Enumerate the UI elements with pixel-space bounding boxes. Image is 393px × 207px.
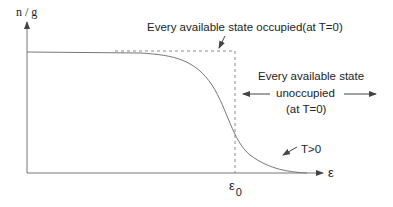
unoccupied-line2: unoccupied <box>276 87 335 99</box>
curve-pointer-arrow <box>283 147 297 155</box>
y-axis-label: n / g <box>16 5 37 19</box>
unoccupied-line1: Every available state <box>258 70 364 82</box>
epsilon-zero-subscript: 0 <box>236 186 242 198</box>
occupied-pointer-arrow <box>219 36 225 48</box>
epsilon-zero-label: ε0 <box>229 178 242 198</box>
x-axis-label: ε <box>328 165 334 180</box>
epsilon-zero-symbol: ε <box>229 178 235 193</box>
occupied-annotation: Every available state occupied(at T=0) <box>147 21 343 33</box>
t0-step-dashed-line <box>115 51 235 173</box>
curve-label: T>0 <box>301 143 321 155</box>
unoccupied-line3: (at T=0) <box>286 103 327 115</box>
fermi-dirac-diagram: n / g Every available state occupied(at … <box>0 0 393 207</box>
